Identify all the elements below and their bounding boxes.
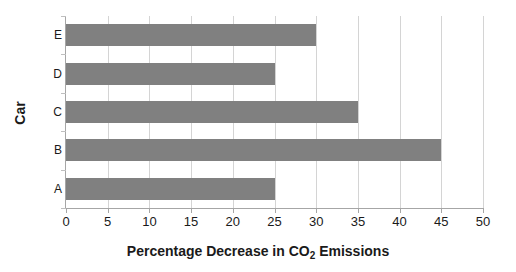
x-axis-tick-label: 35 — [338, 214, 378, 229]
y-axis-tick — [61, 93, 66, 94]
x-axis-title-before: Percentage Decrease in CO — [127, 243, 310, 259]
y-axis-tick-label-a: A — [38, 182, 62, 196]
x-axis-tick-label: 25 — [255, 214, 295, 229]
x-axis-tick-labels: 05101520253035404550 — [66, 214, 483, 232]
y-axis-tick — [61, 208, 66, 209]
bar-chart: Car EDCBA 05101520253035404550 Percentag… — [0, 0, 516, 272]
y-axis-tick — [61, 131, 66, 132]
y-axis-tick-label-d: D — [38, 67, 62, 81]
x-axis-tick — [275, 208, 276, 213]
x-axis-title-after: Emissions — [315, 243, 389, 259]
x-axis-tick — [191, 208, 192, 213]
gridline — [400, 16, 401, 208]
x-axis-tick-label: 30 — [296, 214, 336, 229]
x-axis-tick — [316, 208, 317, 213]
bar-a — [66, 178, 275, 200]
y-axis-tick-label-e: E — [38, 28, 62, 42]
x-axis-tick-label: 20 — [213, 214, 253, 229]
x-axis-tick-label: 5 — [88, 214, 128, 229]
x-axis-tick-label: 45 — [421, 214, 461, 229]
x-axis-tick — [400, 208, 401, 213]
y-axis-tick-label-b: B — [38, 143, 62, 157]
y-axis-tick-label-c: C — [38, 105, 62, 119]
gridline — [441, 16, 442, 208]
bar-c — [66, 101, 358, 123]
x-axis-tick — [483, 208, 484, 213]
bar-e — [66, 24, 316, 46]
bar-d — [66, 63, 275, 85]
x-axis-tick-label: 40 — [380, 214, 420, 229]
x-axis-tick — [149, 208, 150, 213]
x-axis-tick-label: 0 — [46, 214, 86, 229]
x-axis-tick — [441, 208, 442, 213]
y-axis-tick-labels: EDCBA — [38, 16, 62, 208]
x-axis-tick — [358, 208, 359, 213]
bar-b — [66, 139, 441, 161]
x-axis-tick-label: 50 — [463, 214, 503, 229]
x-axis-title: Percentage Decrease in CO2 Emissions — [0, 243, 516, 259]
plot-area — [66, 16, 483, 208]
y-axis-tick — [61, 16, 66, 17]
gridline — [483, 16, 484, 208]
x-axis-tick — [233, 208, 234, 213]
x-axis-tick-label: 15 — [171, 214, 211, 229]
y-axis-tick — [61, 170, 66, 171]
y-axis-tick — [61, 54, 66, 55]
x-axis-tick — [108, 208, 109, 213]
y-axis-title-text: Car — [12, 101, 28, 124]
y-axis-title: Car — [0, 0, 40, 225]
x-axis-title-subscript: 2 — [310, 250, 316, 261]
gridline — [358, 16, 359, 208]
x-axis-tick — [66, 208, 67, 213]
x-axis-tick-label: 10 — [129, 214, 169, 229]
